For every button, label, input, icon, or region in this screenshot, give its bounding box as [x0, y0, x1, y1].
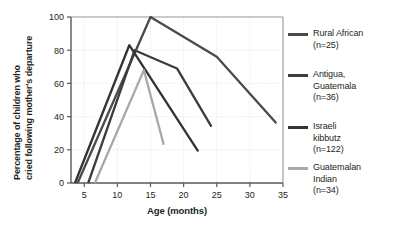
y-axis-label: Percentage of children who cried followi… — [0, 0, 40, 190]
y-axis-label-line1: Percentage of children who — [12, 65, 23, 180]
svg-text:0: 0 — [59, 178, 64, 188]
svg-text:10: 10 — [112, 190, 122, 200]
legend-label: Israelikibbutz(n=122) — [313, 121, 344, 156]
svg-text:30: 30 — [245, 190, 255, 200]
series-line — [75, 45, 198, 183]
svg-text:15: 15 — [145, 190, 155, 200]
y-axis-label-line2: cried following mother's departure — [24, 36, 35, 180]
legend-label: Rural African(n=25) — [313, 28, 363, 51]
svg-text:40: 40 — [54, 112, 64, 122]
svg-text:100: 100 — [49, 12, 64, 22]
legend-label: Antigua,Guatemala(n=36) — [313, 69, 356, 104]
svg-text:5: 5 — [82, 190, 87, 200]
legend-label: GuatemalanIndian(n=34) — [313, 162, 361, 197]
legend-color-swatch — [288, 126, 308, 129]
legend-color-swatch — [288, 167, 308, 170]
legend-color-swatch — [288, 74, 308, 77]
legend-color-swatch — [288, 33, 308, 36]
svg-text:20: 20 — [179, 190, 189, 200]
data-series-lines — [75, 17, 276, 183]
series-line — [95, 70, 164, 183]
svg-text:35: 35 — [278, 190, 288, 200]
svg-text:60: 60 — [54, 79, 64, 89]
x-axis-label: Age (months) — [71, 205, 283, 216]
plot-axes — [71, 17, 283, 183]
chart-figure: 5101520253035020406080100 Percentage of … — [0, 0, 394, 228]
grid-lines — [71, 17, 283, 183]
svg-text:20: 20 — [54, 145, 64, 155]
svg-text:25: 25 — [212, 190, 222, 200]
axis-ticks — [67, 17, 283, 187]
svg-text:80: 80 — [54, 46, 64, 56]
